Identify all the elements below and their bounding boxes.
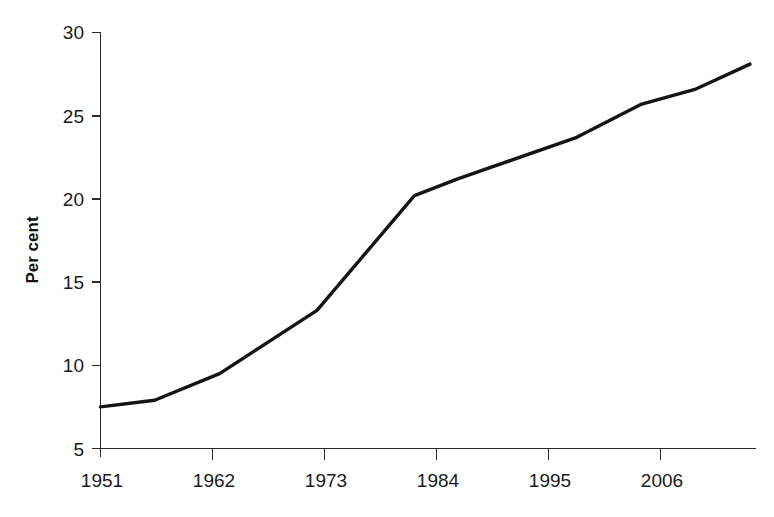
- x-tick-labels: 1951 1962 1973 1984 1995 2006: [81, 470, 683, 491]
- y-tick-label-5: 5: [73, 439, 84, 460]
- y-tick-label-30: 30: [63, 22, 84, 43]
- y-tick-label-15: 15: [63, 272, 84, 293]
- x-tick-label-2006: 2006: [641, 470, 683, 491]
- y-tick-label-20: 20: [63, 189, 84, 210]
- x-tick-label-1962: 1962: [193, 470, 235, 491]
- y-tick-label-25: 25: [63, 106, 84, 127]
- series-line-per-cent: [101, 64, 751, 407]
- x-tick-marks: [101, 431, 661, 460]
- x-tick-label-1951: 1951: [81, 470, 123, 491]
- y-axis-title: Per cent: [23, 216, 42, 283]
- axes-group: [101, 32, 757, 449]
- y-tick-label-10: 10: [63, 355, 84, 376]
- y-tick-labels: 30 25 20 15 10 5: [63, 22, 84, 460]
- x-tick-label-1973: 1973: [305, 470, 347, 491]
- x-tick-label-1995: 1995: [529, 470, 571, 491]
- chart-container: 30 25 20 15 10 5 1951 1962 1973 1984 199…: [0, 0, 774, 517]
- line-chart: 30 25 20 15 10 5 1951 1962 1973 1984 199…: [0, 0, 774, 517]
- x-tick-label-1984: 1984: [417, 470, 460, 491]
